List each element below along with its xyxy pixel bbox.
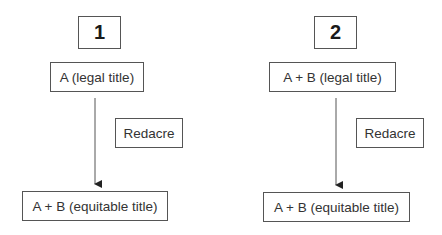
diagram-2-legal-title: A + B (legal title)	[283, 70, 382, 85]
diagram-2-legal-title-box: A + B (legal title)	[269, 62, 396, 92]
diagram-2-property-label: Redacre	[364, 126, 415, 141]
diagram-2-number: 2	[330, 21, 341, 44]
diagram-1-number-box: 1	[78, 16, 121, 49]
diagram-1-equitable-title-box: A + B (equitable title)	[22, 191, 168, 221]
diagram-2-number-box: 2	[314, 16, 357, 49]
diagram-1-legal-title: A (legal title)	[60, 70, 134, 85]
diagram-2-property-box: Redacre	[356, 118, 424, 148]
diagram-2-equitable-title: A + B (equitable title)	[274, 200, 399, 215]
diagram-1-equitable-title: A + B (equitable title)	[33, 199, 158, 214]
diagram-1-number: 1	[94, 21, 105, 44]
diagram-1-property-box: Redacre	[115, 118, 183, 148]
diagram-1-property-label: Redacre	[123, 126, 174, 141]
diagram-2-equitable-title-box: A + B (equitable title)	[263, 192, 410, 222]
diagram-1-legal-title-box: A (legal title)	[50, 62, 144, 92]
